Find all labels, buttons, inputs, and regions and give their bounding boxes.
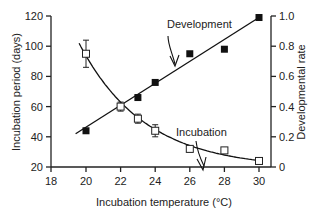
y2-tick-label: 0.4 [279, 101, 294, 113]
chart: 2040608010012000.20.40.60.81.01820222426… [0, 0, 315, 215]
development-point [134, 94, 141, 101]
x-tick-label: 20 [80, 175, 92, 187]
x-tick-label: 22 [114, 175, 126, 187]
y-tick-label: 100 [25, 40, 43, 52]
incubation-fit-curve [79, 43, 259, 160]
y2-tick-label: 0 [279, 161, 285, 173]
y-tick-label: 120 [25, 10, 43, 22]
x-tick-label: 28 [218, 175, 230, 187]
y2-tick-label: 0.2 [279, 131, 294, 143]
y2-tick-label: 1.0 [279, 10, 294, 22]
development-point [221, 46, 228, 53]
incubation-point [186, 145, 193, 152]
development-fit-line [76, 18, 259, 134]
incubation-annotation: Incubation [176, 126, 227, 138]
y2-tick-label: 0.8 [279, 40, 294, 52]
incubation-point [134, 115, 141, 122]
x-axis-title: Incubation temperature (°C) [96, 196, 232, 208]
incubation-arrow-icon [196, 141, 204, 166]
y-axis-title: Incubation period (days) [10, 33, 22, 151]
y2-tick-label: 0.6 [279, 70, 294, 82]
incubation-point [152, 127, 159, 134]
y-tick-label: 20 [31, 161, 43, 173]
y-tick-label: 40 [31, 131, 43, 143]
development-annotation: Development [167, 18, 232, 30]
incubation-point [256, 157, 263, 164]
y-tick-label: 60 [31, 101, 43, 113]
incubation-point [221, 147, 228, 154]
development-point [186, 50, 193, 57]
incubation-arrowhead-icon [197, 157, 206, 170]
development-point [256, 14, 263, 21]
incubation-point [83, 50, 90, 57]
development-point [152, 79, 159, 86]
x-tick-label: 24 [149, 175, 161, 187]
axes [51, 16, 271, 167]
incubation-point [117, 103, 124, 110]
x-tick-label: 18 [45, 175, 57, 187]
fit-curves [76, 18, 259, 161]
x-tick-label: 30 [253, 175, 265, 187]
y2-axis-title: Developmental rate [295, 44, 307, 139]
development-point [83, 127, 90, 134]
y-tick-label: 80 [31, 70, 43, 82]
x-tick-label: 26 [184, 175, 196, 187]
